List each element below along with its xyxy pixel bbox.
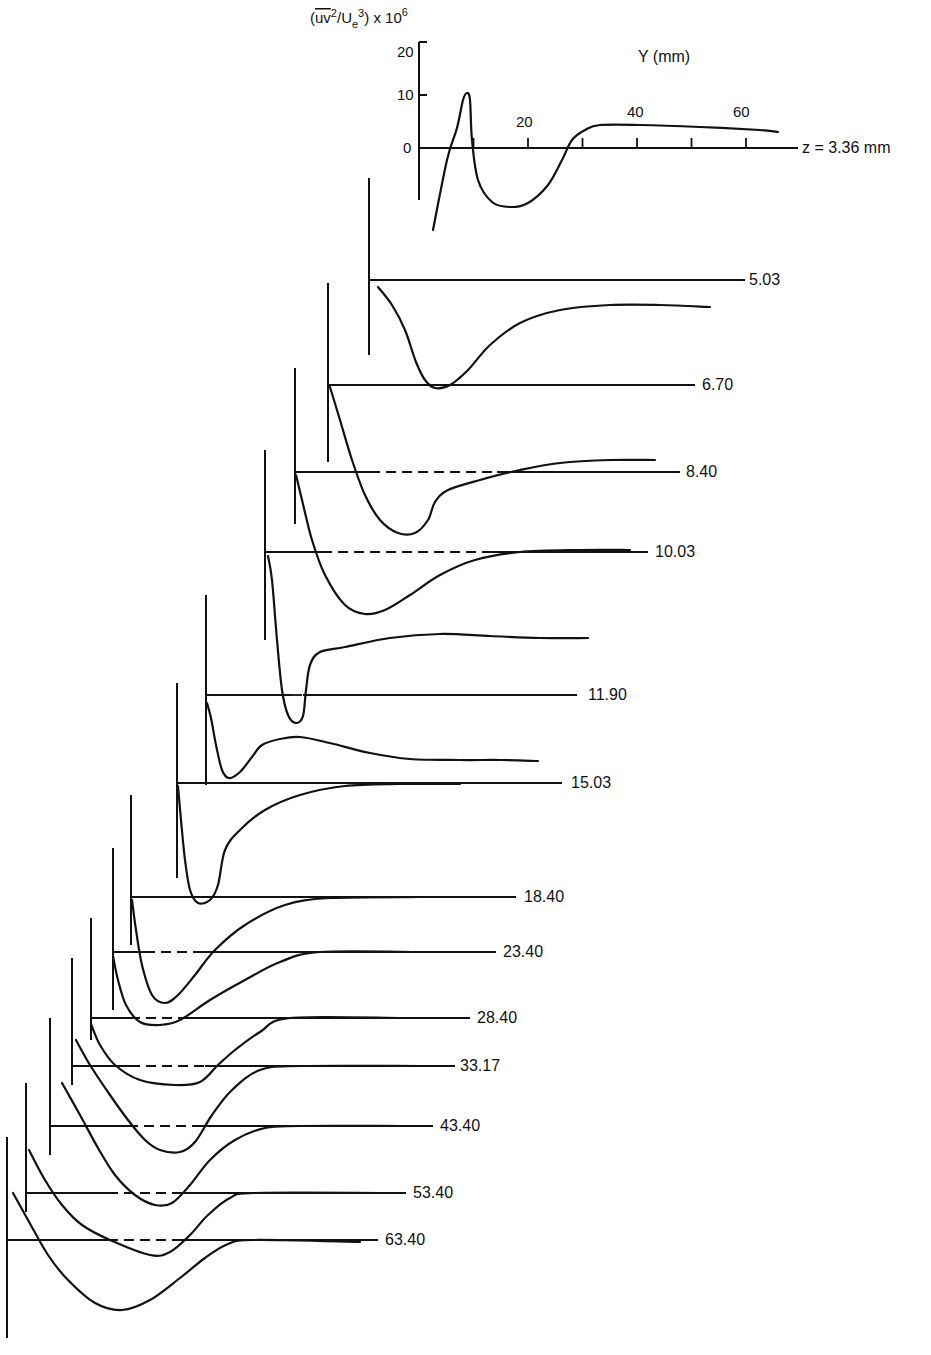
profile-z-label: z = 3.36 mm [802,139,890,156]
y-tick-label: 10 [397,86,414,103]
profile-z-label: 33.17 [460,1057,500,1074]
chart-background [0,0,931,1355]
x-tick-label: 60 [733,103,750,120]
uv2-profile-chart: z = 3.36 mm5.036.708.4010.0311.9015.0318… [0,0,931,1355]
profile-z-label: 11.90 [588,686,627,703]
profile-z-label: 28.40 [477,1009,517,1026]
profile-z-label: 10.03 [655,543,695,560]
profile-z-label: 8.40 [686,463,717,480]
x-tick-label: 40 [627,103,644,120]
profile-z-label: 23.40 [503,943,543,960]
profile-z-label: 5.03 [749,271,780,288]
profile-z-label: 15.03 [571,774,611,791]
x-axis-label: Y (mm) [638,48,690,65]
profile-z-label: 6.70 [702,376,733,393]
profile-z-label: 53.40 [413,1184,453,1201]
profile-z-label: 63.40 [385,1231,425,1248]
x-tick-label: 20 [516,113,533,130]
profile-z-label: 43.40 [440,1117,480,1134]
y-tick-label: 0 [403,139,411,156]
profile-z-label: 18.40 [524,888,564,905]
y-tick-label: 20 [397,43,414,60]
